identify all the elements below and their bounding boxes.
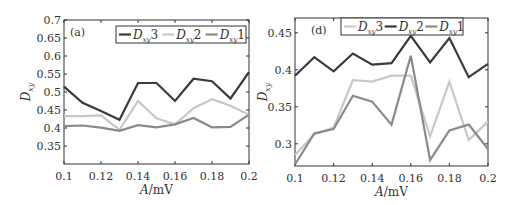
x-tick-label: 0.18 <box>437 172 462 185</box>
x-axis-label-var: A <box>374 185 384 199</box>
legend: Dxy3Dxy2Dxy1 <box>341 18 465 36</box>
axes-frame <box>295 18 488 166</box>
x-tick-label: 0.1 <box>55 170 73 183</box>
y-tick-label: 0.5 <box>44 86 62 99</box>
y-tick-label: 0.45 <box>37 104 62 117</box>
y-tick-label: 0.35 <box>37 140 62 153</box>
x-tick-label: 0.16 <box>163 170 188 183</box>
y-tick-label: 0.45 <box>268 27 293 40</box>
y-tick-label: 0.3 <box>275 138 293 151</box>
panel-label: (a) <box>70 26 85 39</box>
panel-label: (d) <box>311 24 327 37</box>
y-tick-label: 0.4 <box>275 64 293 77</box>
x-tick-label: 0.12 <box>321 172 346 185</box>
y-tick-label: 0.6 <box>44 50 62 63</box>
y-axis-label: Dxy <box>19 82 35 102</box>
y-axis-label: Dxy <box>256 82 272 102</box>
y-tick-label: 0.55 <box>37 68 62 81</box>
x-axis-label-unit: /mV <box>149 183 173 197</box>
x-tick-label: 0.14 <box>360 172 385 185</box>
legend: Dxy3Dxy2Dxy1 <box>116 26 246 44</box>
chart-panel-a: 0.10.120.140.160.180.20.350.40.450.50.55… <box>19 14 258 197</box>
series-line-dxy2 <box>64 99 249 130</box>
chart-panel-d: 0.10.120.140.160.180.20.30.350.40.45A/mV… <box>256 18 497 199</box>
y-tick-label: 0.7 <box>44 14 62 27</box>
x-axis-label-var: A <box>139 183 149 197</box>
x-axis-label: A/mV <box>374 185 408 199</box>
x-tick-label: 0.1 <box>286 172 304 185</box>
x-axis-label-unit: /mV <box>384 185 408 199</box>
y-tick-label: 0.4 <box>44 122 62 135</box>
series-line-dxy3 <box>64 72 249 120</box>
x-tick-label: 0.16 <box>399 172 424 185</box>
x-tick-label: 0.14 <box>126 170 151 183</box>
y-tick-label: 0.65 <box>37 32 62 45</box>
x-tick-label: 0.18 <box>200 170 225 183</box>
series-line-dxy3 <box>295 76 488 155</box>
figure: 0.10.120.140.160.180.20.350.40.450.50.55… <box>0 0 521 205</box>
x-tick-label: 0.2 <box>479 172 497 185</box>
series-line-dxy2 <box>295 36 488 77</box>
y-tick-label: 0.35 <box>268 101 293 114</box>
x-tick-label: 0.12 <box>89 170 114 183</box>
x-tick-label: 0.2 <box>240 170 258 183</box>
x-axis-label: A/mV <box>139 183 173 197</box>
